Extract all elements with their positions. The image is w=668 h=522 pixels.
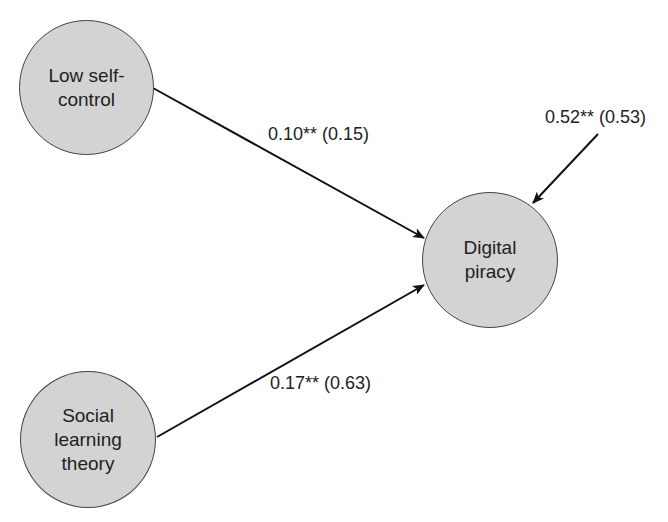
edge-label-social-learning: 0.17** (0.63) bbox=[270, 373, 371, 394]
node-digital-piracy: Digital piracy bbox=[422, 192, 558, 328]
node-label-line: Social bbox=[62, 404, 114, 428]
node-label-line: theory bbox=[62, 452, 115, 476]
node-label-line: Low self- bbox=[48, 64, 124, 88]
edge-error-to-digital-piracy bbox=[533, 134, 598, 203]
node-label-line: piracy bbox=[465, 260, 516, 284]
edge-low-self-control-to-digital-piracy bbox=[153, 88, 424, 238]
node-label-line: control bbox=[58, 88, 115, 112]
edge-label-low-self-control: 0.10** (0.15) bbox=[268, 124, 369, 145]
edge-social-learning-to-digital-piracy bbox=[157, 285, 424, 437]
node-label-line: Digital bbox=[464, 236, 517, 260]
node-label-line: learning bbox=[54, 428, 122, 452]
node-low-self-control: Low self- control bbox=[19, 20, 154, 155]
node-social-learning-theory: Social learning theory bbox=[20, 371, 156, 508]
edge-label-error: 0.52** (0.53) bbox=[545, 107, 646, 128]
